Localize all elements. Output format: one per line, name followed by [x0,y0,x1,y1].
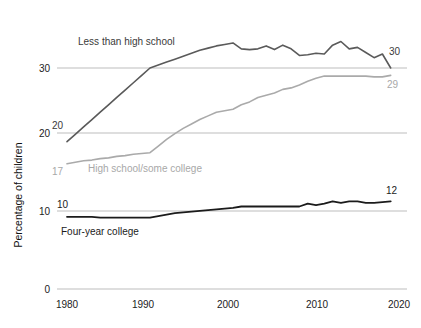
x-tick-1980: 1980 [56,299,79,310]
x-tick-2000: 2000 [217,299,240,310]
end-value-four-year-college: 12 [386,185,398,196]
y-axis-title: Percentage of children [12,142,24,247]
end-value-high-school-some-college: 29 [387,79,399,90]
start-value-less-than-high-school: 20 [52,120,64,131]
end-value-less-than-high-school: 30 [389,46,401,57]
x-tick-2010: 2010 [306,299,329,310]
y-tick-30: 30 [39,63,51,74]
x-tick-1990: 1990 [132,299,155,310]
y-tick-0: 0 [44,284,50,295]
y-tick-10: 10 [39,206,51,217]
start-value-high-school-some-college: 17 [52,166,64,177]
start-value-four-year-college: 10 [57,199,69,210]
y-tick-20: 20 [39,128,51,139]
series-label-four-year-college: Four-year college [61,226,139,237]
chart-container: 30 20 10 0 Percentage of children 1980 1… [0,0,421,328]
series-label-high-school-some-college: High school/some college [88,163,202,174]
series-label-less-than-high-school: Less than high school [78,36,175,47]
x-tick-2020: 2020 [388,299,411,310]
chart-background [0,0,421,328]
line-chart: 30 20 10 0 Percentage of children 1980 1… [0,0,421,328]
